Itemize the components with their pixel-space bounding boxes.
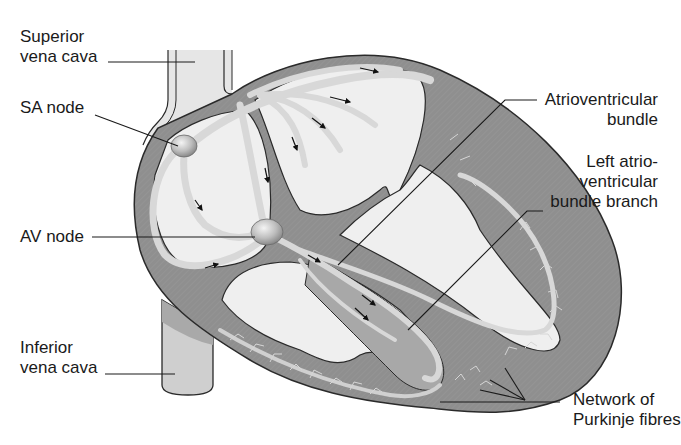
label-line: Network of bbox=[573, 390, 681, 410]
label-sa-node: SA node bbox=[20, 98, 84, 118]
label-line: Atrioventricular bbox=[545, 90, 658, 110]
label-av-node: AV node bbox=[20, 227, 84, 247]
sa-node bbox=[171, 135, 197, 157]
label-atrioventricular-bundle: Atrioventricular bundle bbox=[545, 90, 658, 130]
av-node bbox=[251, 219, 283, 245]
label-superior-vena-cava: Superior vena cava bbox=[20, 27, 98, 67]
label-line: Superior bbox=[20, 27, 98, 47]
label-purkinje-fibres: Network of Purkinje fibres bbox=[573, 390, 681, 430]
label-line: SA node bbox=[20, 98, 84, 118]
label-line: Purkinje fibres bbox=[573, 410, 681, 430]
label-line: vena cava bbox=[20, 47, 98, 67]
label-line: vena cava bbox=[20, 358, 98, 378]
label-line: Inferior bbox=[20, 338, 98, 358]
label-line: Left atrio- bbox=[550, 152, 658, 172]
label-line: bundle bbox=[545, 110, 658, 130]
label-line: ventricular bbox=[550, 172, 658, 192]
label-left-av-bundle-branch: Left atrio- ventricular bundle branch bbox=[550, 152, 658, 212]
label-line: AV node bbox=[20, 227, 84, 247]
label-inferior-vena-cava: Inferior vena cava bbox=[20, 338, 98, 378]
label-line: bundle branch bbox=[550, 192, 658, 212]
